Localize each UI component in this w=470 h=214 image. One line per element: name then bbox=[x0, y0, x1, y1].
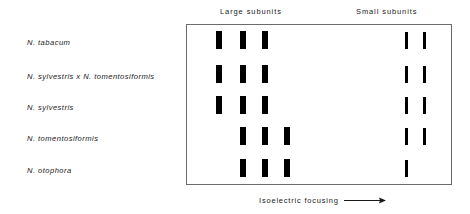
large-subunit-band bbox=[262, 31, 268, 49]
large-subunit-band bbox=[262, 159, 268, 177]
axis-caption-label: Isoelectric focusing bbox=[259, 196, 339, 205]
small-subunit-band bbox=[423, 66, 426, 83]
large-subunit-band bbox=[262, 127, 268, 145]
large-subunit-band bbox=[262, 65, 268, 83]
column-header-large-subunits: Large subunits bbox=[220, 7, 282, 16]
small-subunit-band bbox=[423, 97, 426, 114]
small-subunit-band bbox=[423, 128, 426, 145]
large-subunit-band bbox=[240, 127, 246, 145]
taxon-label: N. sylvestris bbox=[27, 103, 74, 112]
small-subunit-band bbox=[405, 128, 408, 145]
large-subunit-band bbox=[240, 31, 246, 49]
large-subunit-band bbox=[240, 96, 246, 114]
small-subunit-band bbox=[405, 32, 408, 49]
large-subunit-band bbox=[216, 96, 222, 114]
taxon-label: N. tabacum bbox=[27, 38, 70, 47]
gel-plot-area bbox=[186, 24, 452, 185]
axis-caption: Isoelectric focusing bbox=[259, 196, 386, 205]
arrow-right-icon bbox=[344, 197, 386, 204]
large-subunit-band bbox=[240, 159, 246, 177]
small-subunit-band bbox=[405, 66, 408, 83]
small-subunit-band bbox=[405, 160, 408, 177]
large-subunit-band bbox=[240, 65, 246, 83]
large-subunit-band bbox=[216, 31, 222, 49]
taxon-label: N. sylvestris x N. tomentosiformis bbox=[27, 72, 155, 81]
column-header-small-subunits: Small subunits bbox=[356, 7, 417, 16]
large-subunit-band bbox=[284, 159, 290, 177]
large-subunit-band bbox=[284, 127, 290, 145]
taxon-label: N. otophora bbox=[27, 166, 72, 175]
gel-figure: Large subunits Small subunits N. tabacum… bbox=[0, 0, 470, 214]
large-subunit-band bbox=[216, 65, 222, 83]
small-subunit-band bbox=[423, 32, 426, 49]
taxon-label: N. tomentosiformis bbox=[27, 134, 98, 143]
large-subunit-band bbox=[262, 96, 268, 114]
small-subunit-band bbox=[405, 97, 408, 114]
